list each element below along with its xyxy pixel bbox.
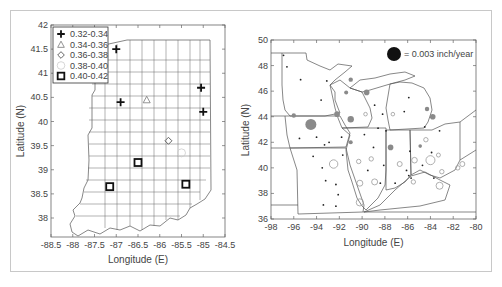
dot-marker [325,180,327,182]
dot-marker [408,97,410,99]
right-data-points [283,54,465,207]
dot-marker [373,147,375,149]
y-tick-label: 36 [258,214,268,224]
dot-marker [363,134,365,136]
dot-marker [408,175,410,177]
filled-circle-marker [348,116,354,122]
y-tick-label: 40 [258,163,268,173]
y-tick-label: 48 [258,61,268,71]
y-tick-label: 40.5 [30,92,48,102]
y-axis-title: Latitude (N) [240,104,251,156]
legend-label: 0.32-0.34 [70,29,108,39]
filled-circle-marker [430,114,436,120]
dot-marker [321,167,323,169]
midwest-map-plot [271,40,476,219]
dot-marker [286,66,288,68]
y-axis-title: Latitude (N) [15,105,26,157]
open-circle-marker [411,180,415,184]
y-tick-label: 46 [258,86,268,96]
x-tick-label: -84 [424,222,437,232]
dot-marker [341,136,343,138]
dot-marker [424,126,426,128]
size-legend-marker [387,47,401,61]
x-tick-label: -82 [447,222,460,232]
y-tick-label: 38 [38,213,48,223]
filled-circle-marker [349,140,353,144]
dot-marker [324,144,326,146]
filled-circle-marker [292,113,296,117]
x-tick-label: -86 [401,222,414,232]
x-tick-label: -87.5 [84,240,105,250]
dot-marker [383,164,385,166]
x-tick-label: -80 [469,222,482,232]
open-circle-marker [426,156,435,165]
dot-marker [379,182,381,184]
x-axis-title: Longitude (E) [108,254,168,265]
dot-marker [326,80,328,82]
y-tick-label: 38 [258,188,268,198]
square-marker [135,159,142,166]
dot-marker [300,79,302,81]
open-circle-marker [329,160,337,168]
open-circle-marker [364,112,368,116]
filled-circle-marker [305,119,316,130]
square-marker [106,183,113,190]
dot-marker [385,130,387,132]
filled-circle-marker [418,144,422,148]
size-legend-label: = 0.003 inch/year [404,49,473,59]
filled-circle-marker [364,90,370,96]
x-tick-label: -85 [197,240,210,250]
x-tick-label: -90 [356,222,369,232]
dot-marker [299,138,301,140]
size-legend: = 0.003 inch/year [387,47,473,61]
open-circle-marker [460,162,465,167]
x-axis-title: Longitude (E) [343,237,403,248]
y-tick-label: 39.5 [30,141,48,151]
figure-canvas: -88.5-88-87.5-87-86.5-86-85.5-85-84.5424… [0,0,502,287]
x-tick-label: -88.5 [41,240,62,250]
x-tick-label: -85.5 [171,240,192,250]
dot-marker [382,113,384,115]
open-circle-marker [436,153,440,157]
x-tick-label: -86 [153,240,166,250]
y-tick-label: 41.5 [30,44,48,54]
open-circle-marker [357,180,363,186]
dot-marker [335,184,337,186]
triangle-marker [143,96,150,103]
dot-marker [320,99,322,101]
open-circle-marker [372,179,378,185]
filled-circle-marker [349,77,353,81]
y-tick-label: 38.5 [30,189,48,199]
right-plot-area [271,40,476,219]
y-tick-label: 50 [258,35,268,45]
open-circle-marker [436,182,443,189]
dot-marker [406,170,408,172]
left-legend: 0.32-0.340.34-0.360.36-0.380.38-0.400.40… [53,27,108,83]
legend-label: 0.34-0.36 [70,40,108,50]
dot-marker [409,150,411,152]
x-tick-label: -92 [333,222,346,232]
plus-marker [117,98,125,106]
x-tick-label: -84.5 [215,240,236,250]
dot-marker [335,205,337,207]
square-marker [182,181,189,188]
open-circle-marker [356,159,360,163]
x-tick-label: -96 [287,222,300,232]
y-tick-label: 42 [38,20,48,30]
dot-marker [422,164,424,166]
open-circle-marker [397,162,402,167]
x-tick-label: -94 [310,222,323,232]
plus-marker [197,84,205,92]
x-tick-label: -86.5 [128,240,149,250]
dot-marker [377,127,379,129]
dot-marker [403,111,405,113]
open-circle-marker [391,112,395,116]
dot-marker [322,204,324,206]
filled-circle-marker [425,107,429,111]
dot-marker [367,170,369,172]
y-tick-label: 44 [258,112,268,122]
plus-marker [199,108,207,116]
open-circle-marker [369,157,373,161]
legend-label: 0.40-0.42 [70,71,108,81]
filled-circle-marker [344,90,348,94]
